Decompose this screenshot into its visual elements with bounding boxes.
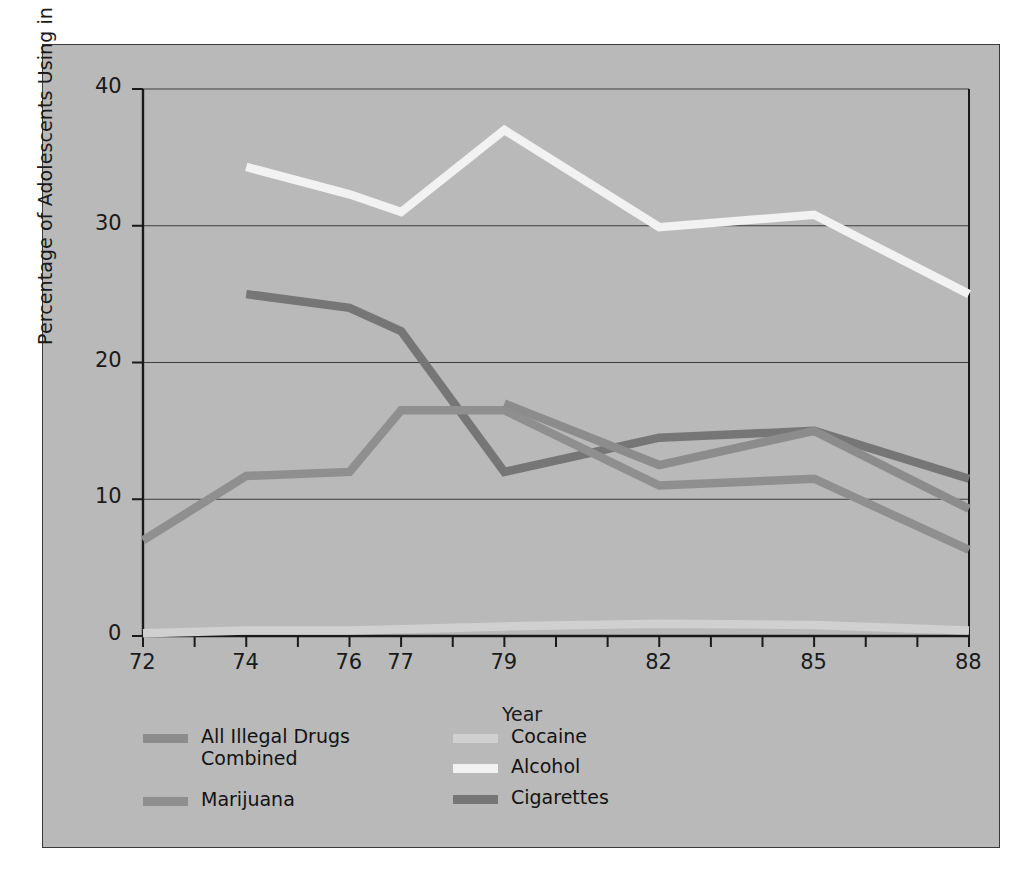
x-tick-label: 82 bbox=[645, 650, 672, 674]
y-tick-label: 10 bbox=[95, 484, 122, 508]
legend-label-alcohol: Alcohol bbox=[511, 755, 580, 777]
legend-swatch-cocaine bbox=[453, 734, 498, 743]
legend-item-alcohol[interactable]: Alcohol bbox=[453, 755, 609, 777]
series-cocaine bbox=[143, 624, 969, 634]
legend-label-cigarettes: Cigarettes bbox=[511, 786, 609, 808]
legend-swatch-all-illegal-drugs-combined bbox=[143, 734, 188, 743]
x-tick-label: 77 bbox=[387, 650, 414, 674]
legend-item-marijuana[interactable]: Marijuana bbox=[143, 788, 431, 810]
x-tick-label: 74 bbox=[232, 650, 259, 674]
x-tick-label: 76 bbox=[336, 650, 363, 674]
legend-label-all-illegal-drugs-combined: All Illegal Drugs Combined bbox=[201, 725, 431, 770]
legend-swatch-alcohol bbox=[453, 764, 498, 773]
legend-column-right: Cocaine Alcohol Cigarettes bbox=[453, 725, 609, 816]
y-tick-label: 40 bbox=[95, 74, 122, 98]
y-tick-label: 30 bbox=[95, 211, 122, 235]
legend-item-cocaine[interactable]: Cocaine bbox=[453, 725, 609, 747]
legend-item-cigarettes[interactable]: Cigarettes bbox=[453, 786, 609, 808]
series-marijuana bbox=[143, 410, 969, 549]
legend-column-left: All Illegal Drugs Combined Marijuana bbox=[143, 725, 431, 818]
legend-swatch-cigarettes bbox=[453, 795, 498, 804]
x-tick-label: 85 bbox=[800, 650, 827, 674]
x-tick-label: 88 bbox=[955, 650, 982, 674]
figure-panel: Percentage of Adolescents Using in Past … bbox=[42, 44, 1000, 848]
y-tick-label: 20 bbox=[95, 348, 122, 372]
legend-label-marijuana: Marijuana bbox=[201, 788, 295, 810]
legend-item-all-illegal-drugs-combined[interactable]: All Illegal Drugs Combined bbox=[143, 725, 431, 770]
x-tick-label: 72 bbox=[129, 650, 156, 674]
legend-swatch-marijuana bbox=[143, 797, 188, 806]
x-tick-label: 79 bbox=[490, 650, 517, 674]
legend-label-cocaine: Cocaine bbox=[511, 725, 587, 747]
y-tick-label: 0 bbox=[108, 621, 121, 645]
series-alcohol bbox=[246, 130, 969, 294]
